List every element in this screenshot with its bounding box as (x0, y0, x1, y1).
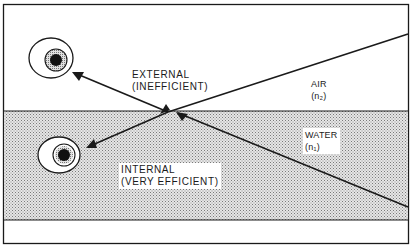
external-label-qualifier: (INEFFICIENT) (132, 81, 208, 93)
internal-label: INTERNAL (VERY EFFICIENT) (119, 163, 221, 189)
internal-label-title: INTERNAL (121, 164, 219, 176)
eye-icon-upper (29, 38, 73, 78)
air-label-index: (n₂) (311, 90, 327, 102)
external-label-title: EXTERNAL (132, 69, 208, 81)
water-label: WATER (n₁) (303, 128, 340, 154)
internal-label-qualifier: (VERY EFFICIENT) (121, 176, 219, 188)
reflection-diagram (0, 0, 413, 248)
air-label: AIR (n₂) (311, 78, 327, 102)
water-label-title: WATER (305, 129, 338, 141)
water-label-index: (n₁) (305, 141, 338, 153)
external-label: EXTERNAL (INEFFICIENT) (132, 69, 208, 93)
air-label-title: AIR (311, 78, 327, 90)
eye-icon-lower (38, 137, 80, 173)
